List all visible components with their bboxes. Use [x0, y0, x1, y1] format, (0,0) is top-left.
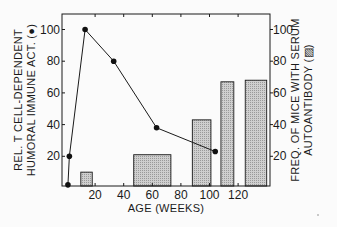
x-tick-label: 120	[228, 188, 248, 202]
left-y-tick-label: 20	[47, 149, 61, 163]
data-point-marker	[82, 27, 88, 33]
x-axis-label: AGE (WEEKS)	[128, 202, 205, 214]
svg-text:REL. T CELL-DEPENDENT: REL. T CELL-DEPENDENT	[12, 29, 24, 171]
left-y-tick-label: 40	[47, 118, 61, 132]
right-y-tick-label: 20	[273, 149, 287, 163]
left-y-axis-label: REL. T CELL-DEPENDENTHUMORAL IMMUNE ACT.…	[12, 24, 37, 176]
data-point-marker	[111, 58, 117, 64]
autoantibody-bar	[192, 120, 211, 186]
right-y-axis-label: FREQ. OF MICE WITH SERUMAUTOANTIBODY (▨)	[289, 18, 314, 182]
left-y-tick-label: 100	[40, 23, 60, 37]
x-tick-label: 80	[174, 188, 188, 202]
svg-text:HUMORAL IMMUNE ACT. (●): HUMORAL IMMUNE ACT. (●)	[25, 24, 37, 176]
autoantibody-bar	[245, 80, 266, 186]
x-tick-label: 40	[117, 188, 131, 202]
autoantibody-bar	[81, 172, 92, 186]
left-y-tick-label: 60	[47, 86, 61, 100]
data-point-marker	[212, 149, 218, 155]
chart: 20406080100120 20406080100 20406080100 A…	[0, 0, 337, 227]
right-y-tick-label: 80	[273, 54, 287, 68]
stray-dot	[317, 214, 319, 216]
right-y-tick-label: 60	[273, 86, 287, 100]
data-point-marker	[67, 154, 73, 160]
x-tick-label: 20	[88, 188, 102, 202]
svg-text:AUTOANTIBODY (▨): AUTOANTIBODY (▨)	[302, 44, 314, 156]
data-point-marker	[154, 125, 160, 131]
data-point-marker	[65, 182, 71, 188]
x-tick-label: 60	[146, 188, 160, 202]
left-y-axis-ticks: 20406080100	[40, 23, 65, 164]
svg-text:FREQ. OF MICE WITH SERUM: FREQ. OF MICE WITH SERUM	[289, 18, 301, 182]
right-y-tick-label: 40	[273, 118, 287, 132]
autoantibody-bar	[134, 155, 171, 186]
left-y-tick-label: 80	[47, 54, 61, 68]
autoantibody-bars	[81, 80, 267, 186]
autoantibody-bar	[221, 82, 234, 186]
x-tick-label: 100	[199, 188, 219, 202]
